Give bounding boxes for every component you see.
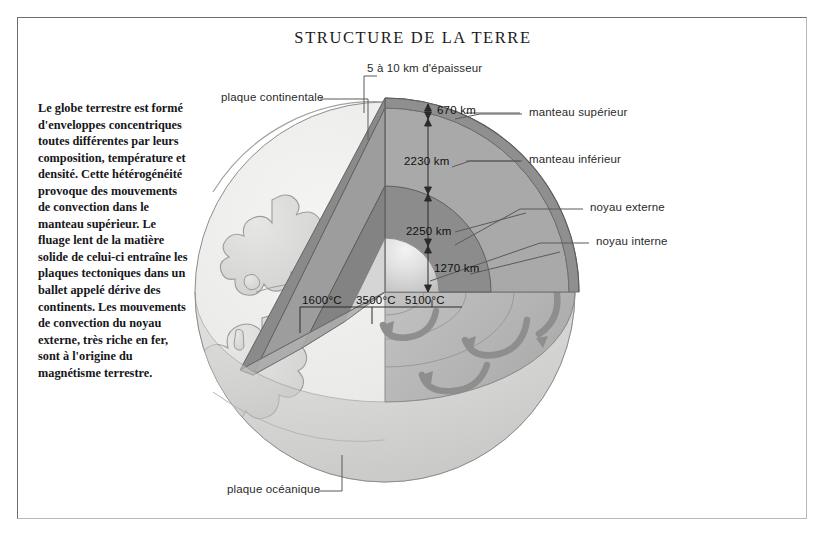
label-lower-mantle: manteau inférieur bbox=[529, 153, 621, 165]
depth-outer-core: 2250 km bbox=[406, 225, 452, 237]
label-oceanic-plate: plaque océanique bbox=[227, 483, 320, 495]
temp-lower-mantle-boundary: 3500°C bbox=[356, 294, 396, 306]
temp-upper-mantle-boundary: 1600°C bbox=[302, 294, 342, 306]
depth-upper-mantle: 670 km bbox=[437, 104, 476, 116]
temp-core-center: 5100°C bbox=[405, 294, 445, 306]
depth-inner-core: 1270 km bbox=[434, 262, 480, 274]
label-upper-mantle: manteau supérieur bbox=[529, 106, 627, 118]
label-outer-core: noyau externe bbox=[590, 201, 665, 213]
label-crust-thickness: 5 à 10 km d'épaisseur bbox=[367, 62, 482, 74]
earth-cutaway-illustration bbox=[0, 0, 826, 538]
depth-lower-mantle: 2230 km bbox=[404, 155, 450, 167]
label-continental-plate: plaque continentale bbox=[221, 91, 324, 103]
diagram-page: STRUCTURE DE LA TERRE Le globe terrestre… bbox=[0, 0, 826, 538]
label-inner-core: noyau interne bbox=[596, 235, 668, 247]
